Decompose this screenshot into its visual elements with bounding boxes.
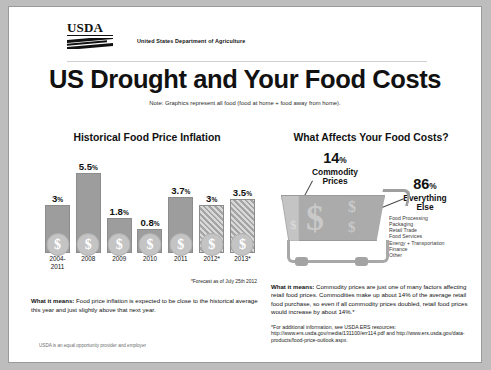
right-what-it-means-label: What it means: xyxy=(271,283,314,290)
dollar-coin-icon: $ xyxy=(200,233,223,256)
chart-bar-group: 3.7%$ xyxy=(168,155,193,253)
agency-name: United States Department of Agriculture xyxy=(137,38,245,44)
commodity-percent-symbol: % xyxy=(339,155,346,165)
chart-bar-value: 0.8% xyxy=(140,217,159,228)
everything-percent-value: 86 xyxy=(413,176,429,192)
infographic-page: USDA United States Department of Agricul… xyxy=(9,7,481,362)
chart-bar-value: 1.8% xyxy=(110,206,129,217)
dollar-coin-icon: $ xyxy=(108,233,131,256)
dollar-icon: $ xyxy=(348,220,356,235)
left-what-it-means: What it means: Food price inflation is e… xyxy=(31,297,263,314)
cart-handle xyxy=(379,189,412,206)
reference-note: *For additional information, see USDA ER… xyxy=(271,324,471,344)
chart-bar-group: 3%$ xyxy=(45,155,70,253)
commodity-percent: 14% xyxy=(293,151,377,168)
chart-x-label: 2012* xyxy=(199,255,224,275)
chart-bar-value: 3.5% xyxy=(233,187,252,198)
chart-bar-group: 3%$ xyxy=(199,155,224,253)
right-section-title: What Affects Your Food Costs? xyxy=(271,132,471,143)
chart-bar: $ xyxy=(107,218,132,253)
chart-x-axis: 2004-201120082009201020112012*2013* xyxy=(45,255,255,275)
screenshot-canvas: USDA United States Department of Agricul… xyxy=(0,0,491,370)
chart-bar: $ xyxy=(76,173,101,253)
right-column: What Affects Your Food Costs? 14% Commod… xyxy=(271,132,471,343)
chart-bar-group: 5.5%$ xyxy=(76,155,101,253)
cart-commodity-segment xyxy=(282,196,299,242)
chart-bar: $ xyxy=(137,229,162,253)
dollar-coin-icon: $ xyxy=(138,233,161,256)
commodity-percent-value: 14 xyxy=(323,150,339,166)
chart-bar-group: 1.8%$ xyxy=(107,155,132,253)
usda-logo: USDA xyxy=(67,21,119,49)
chart-x-label: 2004-2011 xyxy=(45,255,70,275)
page-title: US Drought and Your Food Costs xyxy=(9,65,481,94)
chart-bar: $ xyxy=(168,197,193,253)
chart-x-label: 2013* xyxy=(230,255,255,275)
chart-bar-value: 3% xyxy=(52,193,63,204)
dollar-coin-icon: $ xyxy=(169,233,192,256)
graphics-note: Note: Graphics represent all food (food … xyxy=(9,100,481,106)
chart-bar: $ xyxy=(199,205,224,253)
chart-x-label: 2008 xyxy=(76,255,101,275)
header-divider xyxy=(67,61,427,62)
cart-wheel xyxy=(355,257,368,266)
left-column: Historical Food Price Inflation 3%$5.5%$… xyxy=(31,132,263,314)
commodity-prices-label: 14% Commodity Prices xyxy=(293,151,377,187)
right-what-it-means: What it means: Commodity prices are just… xyxy=(271,283,471,317)
chart-x-label: 2010 xyxy=(137,255,162,275)
dollar-coin-icon: $ xyxy=(231,233,254,256)
usda-flag-icon xyxy=(67,38,113,49)
chart-bar: $ xyxy=(230,199,255,253)
left-what-it-means-label: What it means: xyxy=(31,297,74,304)
chart-bar: $ xyxy=(45,205,70,253)
dollar-icon: $ xyxy=(306,200,324,236)
footer-disclaimer: USDA is an equal opportunity provider an… xyxy=(39,343,146,348)
left-section-title: Historical Food Price Inflation xyxy=(31,132,263,143)
page-header: USDA United States Department of Agricul… xyxy=(9,7,481,55)
dollar-icon: $ xyxy=(348,199,356,215)
chart-x-label: 2009 xyxy=(107,255,132,275)
chart-bar-value: 5.5% xyxy=(79,161,98,172)
forecast-footnote: *Forecast as of July 25th 2012 xyxy=(191,279,257,284)
cart-wheel xyxy=(295,257,308,266)
chart-bar-value: 3.7% xyxy=(171,185,190,196)
everything-percent-symbol: % xyxy=(429,181,436,191)
chart-x-label: 2011 xyxy=(168,255,193,275)
chart-bars: 3%$5.5%$1.8%$0.8%$3.7%$3%$3.5%$ xyxy=(45,155,255,253)
chart-bar-group: 0.8%$ xyxy=(137,155,162,253)
shopping-cart-graphic: 14% Commodity Prices 86% Everything Else… xyxy=(271,147,471,277)
chart-bar-value: 3% xyxy=(206,193,217,204)
usda-logo-wordmark: USDA xyxy=(67,21,113,36)
commodity-label-line2: Prices xyxy=(293,177,377,186)
cart-illustration: $ $ $ $ xyxy=(281,195,409,271)
dollar-coin-icon: $ xyxy=(77,233,100,256)
inflation-bar-chart: 3%$5.5%$1.8%$0.8%$3.7%$3%$3.5%$ 2004-201… xyxy=(31,155,263,275)
chart-bar-group: 3.5%$ xyxy=(230,155,255,253)
dollar-coin-icon: $ xyxy=(46,233,69,256)
cart-basket: $ $ $ $ xyxy=(281,195,385,241)
